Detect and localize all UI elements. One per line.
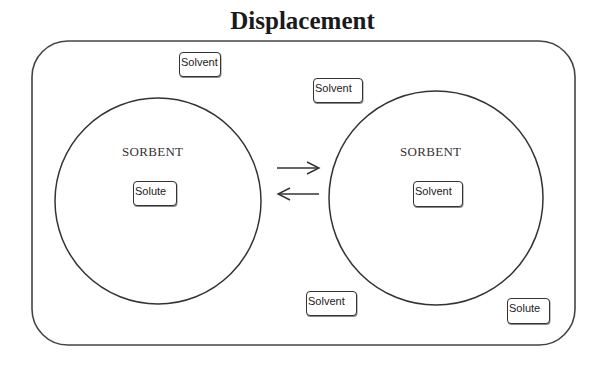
left-sorbent-solute-box: Solute	[133, 181, 177, 206]
right-sorbent-solvent-box: Solvent	[413, 181, 463, 207]
forward-arrow-icon	[277, 162, 319, 174]
left-sorbent-label: SORBENT	[122, 144, 183, 160]
reverse-arrow-icon	[278, 188, 319, 200]
right-sorbent-label: SORBENT	[400, 144, 461, 160]
container-frame	[32, 41, 575, 345]
free-solvent-box-2: Solvent	[313, 78, 363, 103]
free-solvent-box-3: Solvent	[306, 291, 357, 316]
free-solvent-box-1: Solvent	[179, 52, 221, 77]
free-solute-box: Solute	[507, 298, 550, 324]
